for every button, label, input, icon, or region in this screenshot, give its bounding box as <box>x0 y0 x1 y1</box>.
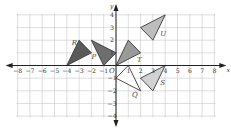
x-tick-label: 5 <box>176 67 180 74</box>
coordinate-grid-diagram: RPTUQS−8−7−6−5−4−3−2−1123456784321−1−2−3… <box>0 0 231 130</box>
triangle-label-p: P <box>90 53 96 61</box>
x-axis-left-arrow-icon <box>6 63 13 68</box>
axes <box>6 4 227 127</box>
y-axis-name: y <box>109 2 114 10</box>
x-tick-label: −2 <box>87 67 96 74</box>
x-tick-label: −4 <box>62 67 71 74</box>
triangle-label-q: Q <box>132 91 138 99</box>
y-tick-label: 3 <box>110 24 114 31</box>
triangle-label-r: R <box>71 39 78 47</box>
x-tick-label: −5 <box>50 67 59 74</box>
triangle-label-u: U <box>160 30 167 38</box>
triangle-label-t: T <box>137 56 143 64</box>
x-tick-label: 7 <box>200 67 204 74</box>
y-tick-label: −1 <box>108 74 117 81</box>
y-tick-label: 4 <box>110 11 114 18</box>
x-tick-label: −7 <box>25 67 34 74</box>
x-tick-label: 6 <box>188 67 192 74</box>
x-tick-label: −6 <box>38 67 47 74</box>
y-tick-label: 1 <box>110 49 114 56</box>
x-axis-right-arrow-icon <box>219 63 226 68</box>
x-tick-label: 2 <box>139 67 143 74</box>
x-tick-label: −3 <box>75 67 84 74</box>
x-tick-label: 1 <box>127 67 131 74</box>
x-tick-label: −8 <box>13 67 22 74</box>
triangle-label-s: S <box>160 79 165 87</box>
y-axis-up-arrow-icon <box>114 4 119 11</box>
y-tick-label: −4 <box>108 112 117 119</box>
x-tick-label: 8 <box>213 67 217 74</box>
x-tick-label: 3 <box>151 67 155 74</box>
y-tick-label: 2 <box>110 36 114 43</box>
x-tick-label: 4 <box>163 67 167 74</box>
y-tick-label: −3 <box>108 100 117 107</box>
x-axis-name: x <box>226 66 230 73</box>
y-tick-label: −2 <box>108 87 117 94</box>
origin-label: O <box>109 67 115 75</box>
y-axis-down-arrow-icon <box>114 120 119 127</box>
x-tick-label: −1 <box>99 67 108 74</box>
